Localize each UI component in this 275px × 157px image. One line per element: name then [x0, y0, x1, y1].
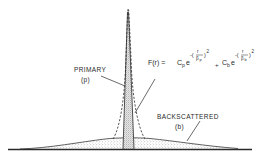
term1-base: e — [186, 59, 190, 66]
term2-exp-prefix: -( — [235, 52, 239, 58]
primary-label: PRIMARY — [74, 66, 107, 73]
equation-plus: + — [215, 62, 219, 68]
term1-power: 2 — [207, 49, 210, 54]
diagram-canvas: PRIMARY (p) BACKSCATTERED (b) F(r) = C p… — [0, 0, 275, 157]
psf-diagram: PRIMARY (p) BACKSCATTERED (b) F(r) = C p… — [0, 0, 275, 157]
term1-frac-den-sub: p — [200, 58, 202, 62]
equation-lhs: F(r) = — [148, 59, 165, 67]
primary-leader-line — [101, 76, 125, 86]
equation: F(r) = C p e -( r β p ) 2 + C b e -( r β… — [148, 49, 255, 68]
primary-symbol-label: (p) — [81, 76, 90, 84]
term2-frac-num: r — [242, 49, 244, 54]
term2-coeff-sub: b — [227, 62, 230, 68]
term2-power: 2 — [252, 49, 255, 54]
equation-leader-line — [135, 79, 155, 113]
term1-frac-num: r — [197, 49, 199, 54]
backscattered-symbol-label: (b) — [175, 123, 184, 131]
backscattered-label: BACKSCATTERED — [157, 113, 219, 120]
backscattered-leader-line — [187, 121, 200, 141]
term2-frac-den-sub: b — [245, 58, 247, 62]
term2-base: e — [231, 59, 235, 66]
term1-exp-prefix: -( — [190, 52, 194, 58]
term1-coeff-sub: p — [182, 62, 185, 68]
